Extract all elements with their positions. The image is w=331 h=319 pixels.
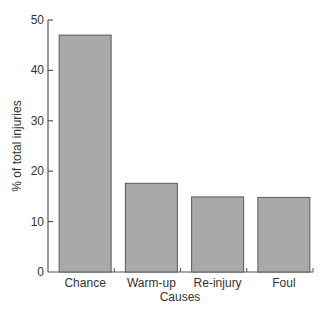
- x-category-label: Chance: [64, 276, 106, 290]
- x-category-label: Warm-up: [127, 276, 176, 290]
- y-axis: 01020304050: [31, 13, 53, 279]
- y-axis-title: % of total injuries: [10, 100, 24, 191]
- bar-warm-up: [125, 183, 177, 272]
- y-tick-label: 30: [31, 114, 45, 128]
- y-tick-label: 20: [31, 164, 45, 178]
- y-tick-label: 50: [31, 13, 45, 27]
- y-tick-label: 0: [37, 265, 44, 279]
- bars: ChanceWarm-upRe-injuryFoul: [59, 35, 310, 290]
- y-tick-label: 40: [31, 63, 45, 77]
- bar-chance: [59, 35, 111, 272]
- bar-chart: 01020304050 ChanceWarm-upRe-injuryFoul C…: [0, 0, 331, 319]
- y-tick-label: 10: [31, 215, 45, 229]
- bar-foul: [258, 197, 310, 272]
- x-category-label: Re-injury: [194, 276, 242, 290]
- x-axis-title: Causes: [160, 290, 201, 304]
- bar-re-injury: [192, 197, 244, 272]
- x-category-label: Foul: [272, 276, 295, 290]
